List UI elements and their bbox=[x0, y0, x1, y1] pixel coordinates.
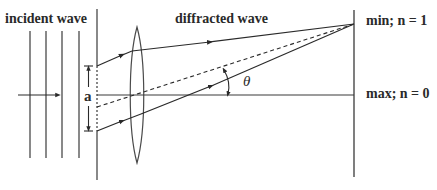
angle-theta-arc bbox=[224, 70, 229, 94]
max-label: max; n = 0 bbox=[366, 87, 430, 101]
incident-wave-label: incident wave bbox=[5, 12, 87, 26]
min-label: min; n = 1 bbox=[366, 14, 427, 28]
slit-width-label: a bbox=[84, 89, 92, 104]
diffracted-wave-label: diffracted wave bbox=[175, 12, 268, 26]
angle-theta-label: θ bbox=[243, 74, 250, 89]
